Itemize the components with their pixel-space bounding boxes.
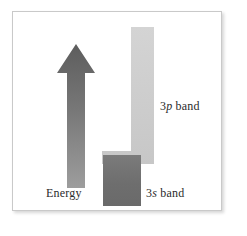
diagram-plot-area: Energy 3p band 3s band [13,12,221,210]
energy-label: Energy [46,186,82,201]
band-3p-label: 3p band [160,99,200,114]
band-3s-shape [103,155,141,206]
band-3p-label-suffix: band [172,99,199,113]
band-3s-label: 3s band [146,186,184,201]
figure-frame: Energy 3p band 3s band [12,11,222,211]
figure-canvas: Energy 3p band 3s band [0,0,247,236]
energy-arrow [56,44,96,188]
band-3s-label-suffix: band [157,186,184,200]
band-3p-shape [102,27,154,164]
